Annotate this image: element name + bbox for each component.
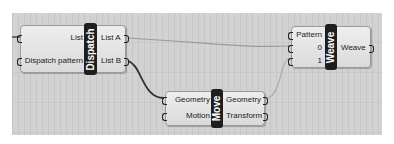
weave-component[interactable]: Pattern 0 1 Weave Weave bbox=[291, 26, 371, 68]
output-label-transform: Transform bbox=[226, 111, 262, 121]
output-label-geometry: Geometry bbox=[226, 95, 261, 105]
input-grip-geometry[interactable] bbox=[162, 97, 167, 105]
output-grip-geometry[interactable] bbox=[263, 97, 268, 105]
grasshopper-canvas[interactable]: List Dispatch pattern Dispatch List A Li… bbox=[12, 13, 382, 135]
input-grip-list[interactable] bbox=[17, 35, 22, 43]
input-label-pattern: Pattern bbox=[296, 30, 322, 40]
input-grip-dispatch-pattern[interactable] bbox=[17, 58, 22, 66]
move-title: Move bbox=[211, 89, 223, 128]
wire-lista-to-weave0[interactable] bbox=[128, 38, 290, 46]
output-grip-list-a[interactable] bbox=[124, 35, 129, 43]
input-label-dispatch-pattern: Dispatch pattern bbox=[25, 56, 83, 66]
output-grip-weave[interactable] bbox=[369, 45, 374, 53]
input-label-1: 1 bbox=[318, 56, 322, 66]
output-label-weave: Weave bbox=[341, 43, 366, 53]
input-grip-pattern[interactable] bbox=[288, 32, 293, 40]
dispatch-component[interactable]: List Dispatch pattern Dispatch List A Li… bbox=[20, 25, 126, 73]
input-label-list: List bbox=[71, 33, 83, 43]
input-label-motion: Motion bbox=[186, 111, 210, 121]
input-grip-1[interactable] bbox=[288, 58, 293, 66]
output-grip-transform[interactable] bbox=[263, 113, 268, 121]
wire-move-to-weave1[interactable] bbox=[268, 59, 290, 98]
wire-listb-to-move-geometry[interactable] bbox=[128, 61, 164, 98]
input-label-geometry: Geometry bbox=[175, 95, 210, 105]
move-component[interactable]: Geometry Motion Move Geometry Transform bbox=[165, 91, 265, 126]
output-label-list-b: List B bbox=[101, 56, 121, 66]
input-label-0: 0 bbox=[318, 43, 322, 53]
weave-title: Weave bbox=[325, 24, 337, 70]
output-label-list-a: List A bbox=[101, 33, 121, 43]
output-grip-list-b[interactable] bbox=[124, 58, 129, 66]
input-grip-motion[interactable] bbox=[162, 113, 167, 121]
input-grip-0[interactable] bbox=[288, 45, 293, 53]
dispatch-title: Dispatch bbox=[84, 23, 97, 75]
